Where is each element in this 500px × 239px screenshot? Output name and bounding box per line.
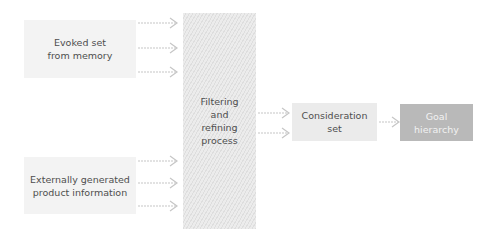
consideration-set-label: Consideration set [302, 109, 368, 135]
arrow-filter-to-consideration-1 [258, 108, 289, 118]
goal-hierarchy-label: Goal hierarchy [414, 110, 459, 136]
arrow-filter-to-consideration-2 [258, 128, 289, 138]
arrow-external-to-filter-3 [138, 201, 177, 211]
goal-hierarchy-box: Goal hierarchy [400, 104, 473, 141]
arrow-evoked-to-filter-1 [138, 18, 177, 28]
arrow-evoked-to-filter-2 [138, 43, 177, 53]
evoked-set-box: Evoked set from memory [24, 20, 136, 78]
evoked-set-label: Evoked set from memory [48, 36, 113, 62]
arrow-external-to-filter-2 [138, 178, 177, 188]
filtering-process-box: Filtering and refining process [183, 13, 256, 229]
external-info-label: Externally generated product information [30, 173, 130, 199]
arrow-evoked-to-filter-3 [138, 67, 177, 77]
consideration-set-box: Consideration set [292, 103, 377, 141]
arrow-consideration-to-goal [379, 117, 399, 127]
arrow-external-to-filter-1 [138, 156, 177, 166]
filtering-process-label: Filtering and refining process [200, 95, 238, 147]
external-info-box: Externally generated product information [24, 157, 136, 214]
